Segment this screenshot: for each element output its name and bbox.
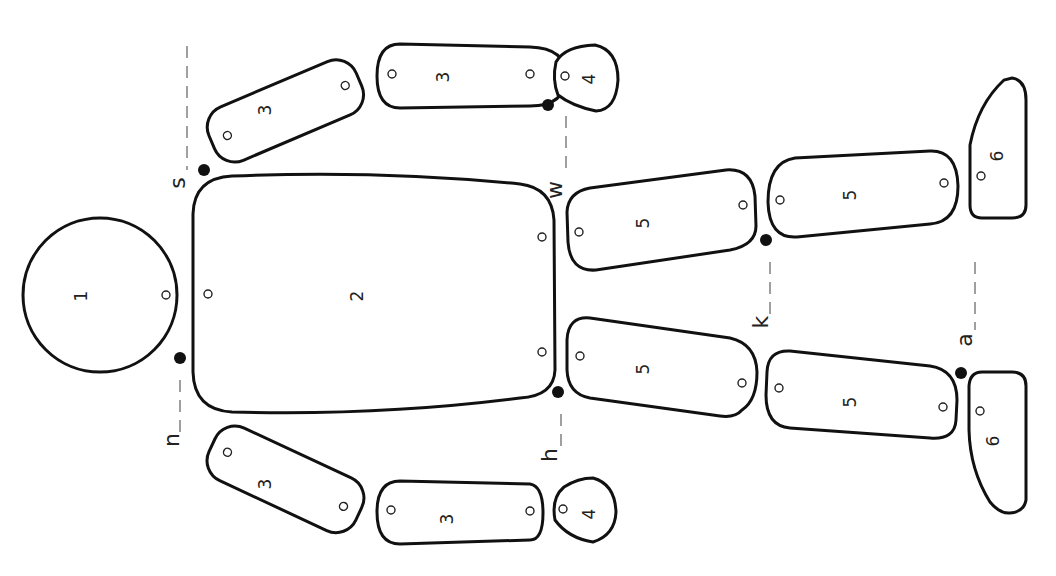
joint-label-k: k [748,315,773,328]
svg-text:2: 2 [347,291,367,302]
part-forearm-top: 3 [377,44,566,108]
joint-label-a: a [952,333,977,346]
part-foot-bottom: 6 [969,372,1026,513]
joint-dot-neck [174,352,186,364]
svg-text:5: 5 [633,364,653,375]
joint-dot-wrist [542,99,554,111]
part-torso: 2 [193,174,555,413]
svg-text:3: 3 [255,479,275,490]
part-upper-arm-bottom [200,419,371,540]
part-hand-top: 4 [554,45,618,111]
svg-text:6: 6 [987,151,1007,162]
svg-text:6: 6 [983,436,1003,447]
svg-text:4: 4 [579,74,599,85]
part-shin-top: 5 [768,151,958,237]
part-thigh-bottom: 5 [567,318,757,417]
joint-label-n: n [159,433,184,447]
svg-text:5: 5 [633,218,653,229]
svg-text:1: 1 [71,291,91,302]
joint-label-h: h [537,448,562,462]
part-forearm-bottom: 3 [377,481,543,544]
paper-doll-diagram: 1 2 3 3 4 3 3 [0,0,1056,576]
joint-dot-shoulder [198,164,210,176]
part-upper-arm-top [200,53,370,169]
joint-label-w: w [542,181,567,199]
joint-dot-hip [552,386,564,398]
svg-text:4: 4 [579,509,599,520]
svg-text:5: 5 [840,190,860,201]
part-thigh-top: 5 [567,170,756,270]
svg-text:3: 3 [433,72,453,83]
part-head: 1 [23,218,177,372]
joint-dot-knee [760,234,772,246]
svg-text:3: 3 [437,514,457,525]
part-foot-top: 6 [970,78,1026,218]
joint-label-s: s [165,177,190,188]
svg-text:3: 3 [255,105,275,116]
part-hand-bottom: 4 [554,478,616,542]
part-shin-bottom: 5 [766,351,957,438]
svg-text:5: 5 [840,397,860,408]
joint-dot-ankle [955,367,967,379]
